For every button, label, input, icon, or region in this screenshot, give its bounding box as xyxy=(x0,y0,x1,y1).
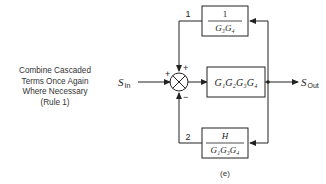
path-number-1: 1 xyxy=(185,9,190,19)
forward-block-label: G₁G₂G₃G₄ xyxy=(215,77,258,88)
feedback1-denominator: G₃G₄ xyxy=(215,23,234,33)
input-label: SIn xyxy=(118,76,130,89)
feedback2-denominator: G₁G₃G₄ xyxy=(211,145,240,155)
output-label: SOut xyxy=(301,76,319,89)
sign-top: + xyxy=(183,63,188,73)
takeoff-point xyxy=(266,80,270,84)
figure-label: (e) xyxy=(220,169,230,178)
path-number-2: 2 xyxy=(185,132,190,142)
sign-left: + xyxy=(165,69,170,79)
sign-bottom: − xyxy=(183,92,188,102)
block-diagram: SIn SOut G₁G₂G₃G₄ 1 G₃G₄ 1 H G₁G₃G₄ 2 + … xyxy=(0,0,326,184)
feedback2-numerator: H xyxy=(221,131,229,141)
feedback1-numerator: 1 xyxy=(223,9,228,19)
